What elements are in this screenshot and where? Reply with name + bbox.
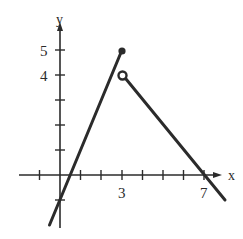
- x-tick-label-3: 3: [118, 185, 126, 201]
- right-piece-line: [126, 79, 225, 200]
- open-endpoint-circle: [119, 72, 127, 80]
- x-tick-label-7: 7: [200, 185, 208, 201]
- closed-endpoint-dot: [118, 47, 125, 54]
- x-axis-label: x: [228, 168, 235, 183]
- y-tick-label-5: 5: [40, 43, 48, 59]
- y-tick-label-4: 4: [40, 68, 48, 84]
- function-graph: y x 5 4 3 7: [0, 0, 243, 239]
- graph-canvas: y x 5 4 3 7: [0, 0, 243, 239]
- y-axis-label: y: [56, 12, 63, 27]
- x-axis-arrow-icon: [213, 172, 222, 178]
